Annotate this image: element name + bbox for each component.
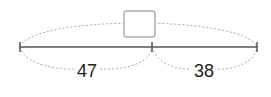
part1-label: 47	[77, 61, 97, 81]
part1-brace-arc	[20, 47, 75, 69]
total-answer-box[interactable]	[124, 11, 155, 37]
part1-brace-arc-right	[100, 47, 152, 69]
part2-brace-arc	[152, 47, 190, 69]
part2-label: 38	[194, 61, 214, 81]
bar-model-diagram: 47 38	[0, 0, 271, 97]
part2-brace-arc-right	[218, 47, 257, 69]
